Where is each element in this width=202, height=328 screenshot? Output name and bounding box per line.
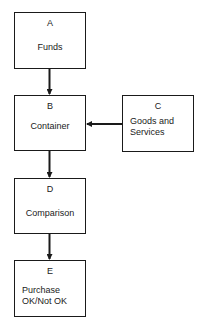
node-label-line1: Purchase [22, 285, 85, 296]
node-label: Comparison [15, 208, 85, 219]
node-label-line2: OK/Not OK [22, 296, 85, 307]
node-letter: E [15, 266, 85, 276]
node-a-funds: A Funds [14, 12, 86, 69]
node-c-goods-and-services: C Goods and Services [122, 95, 194, 152]
node-label: Funds [15, 42, 85, 53]
node-label-line1: Goods and [130, 116, 193, 127]
node-letter: D [15, 184, 85, 194]
node-letter: A [15, 18, 85, 28]
node-e-purchase-decision: E Purchase OK/Not OK [14, 260, 86, 317]
node-label-line2: Services [130, 127, 193, 138]
node-label: Container [15, 121, 85, 132]
node-letter: C [123, 101, 193, 111]
node-d-comparison: D Comparison [14, 178, 86, 234]
node-letter: B [15, 101, 85, 111]
node-b-container: B Container [14, 95, 86, 151]
